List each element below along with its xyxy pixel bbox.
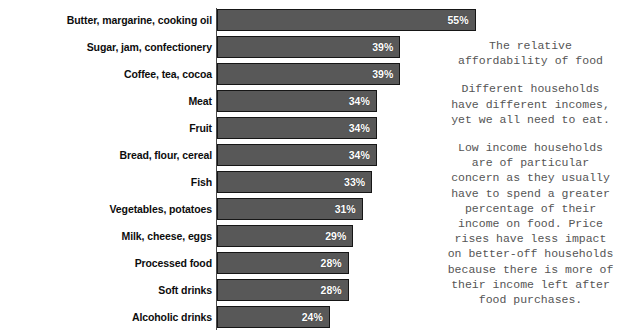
bar-rows: Butter, margarine, cooking oil55%Sugar, … [0,9,480,333]
panel-heading: The relativeaffordability of food [418,38,643,68]
bar-category-label: Soft drinks [2,279,212,301]
panel-text-line: Different households [418,81,643,96]
bar-track: 55% [217,9,476,31]
bar-track: 28% [217,279,349,301]
bar-row: Meat34% [0,90,480,117]
bar-category-label: Alcoholic drinks [2,306,212,328]
bar-row: Soft drinks28% [0,279,480,306]
bar-value-label: 34% [349,150,376,161]
bar-value-label: 39% [372,42,399,53]
panel-paragraph-2: Low income householdsare of particularco… [418,140,643,307]
panel-text-line: are of particular [418,155,643,170]
bar-value-label: 39% [372,69,399,80]
bar-track: 39% [217,63,400,85]
bar-track: 39% [217,36,400,58]
bar: 28% [217,279,349,301]
bar-category-label: Butter, margarine, cooking oil [2,9,212,31]
bar: 33% [217,171,372,193]
side-commentary-panel: The relativeaffordability of food Differ… [418,38,643,307]
bar-category-label: Vegetables, potatoes [2,198,212,220]
bar-category-label: Bread, flour, cereal [2,144,212,166]
bar: 34% [217,144,377,166]
bar-row: Bread, flour, cereal34% [0,144,480,171]
bar-chart: Butter, margarine, cooking oil55%Sugar, … [0,5,480,335]
bar-value-label: 28% [321,285,348,296]
bar-category-label: Coffee, tea, cocoa [2,63,212,85]
panel-text-line: have different incomes, [418,97,643,112]
bar-track: 34% [217,90,377,112]
bar-category-label: Sugar, jam, confectionery [2,36,212,58]
bar-row: Vegetables, potatoes31% [0,198,480,225]
panel-text-line: Low income households [418,140,643,155]
bar: 24% [217,306,330,328]
bar: 31% [217,198,363,220]
bar-track: 29% [217,225,353,247]
bar-category-label: Meat [2,90,212,112]
bar-value-label: 34% [349,96,376,107]
bar-value-label: 31% [335,204,362,215]
bar-row: Milk, cheese, eggs29% [0,225,480,252]
panel-text-line: their income left after [418,277,643,292]
bar: 29% [217,225,353,247]
bar: 55% [217,9,476,31]
panel-paragraph-1: Different householdshave different incom… [418,81,643,127]
bar-row: Butter, margarine, cooking oil55% [0,9,480,36]
bar-track: 34% [217,117,377,139]
bar-value-label: 28% [321,258,348,269]
bar-row: Fruit34% [0,117,480,144]
bar-row: Alcoholic drinks24% [0,306,480,333]
panel-text-line: rises have less impact [418,231,643,246]
infographic-root: (percentage of households) Butter, marga… [0,0,643,335]
panel-text-line: food purchases. [418,292,643,307]
panel-text-line: have to spend a greater [418,186,643,201]
panel-heading-line: The relative [418,38,643,53]
bar-value-label: 29% [325,231,352,242]
bar: 34% [217,117,377,139]
panel-text-line: income on food. Price [418,216,643,231]
bar-track: 28% [217,252,349,274]
bar-value-label: 55% [447,15,474,26]
bar-track: 34% [217,144,377,166]
bar-track: 33% [217,171,372,193]
bar: 39% [217,63,400,85]
panel-text-line: because there is more of [418,262,643,277]
bar: 34% [217,90,377,112]
bar: 28% [217,252,349,274]
bar-value-label: 33% [344,177,371,188]
bar-row: Coffee, tea, cocoa39% [0,63,480,90]
panel-text-line: percentage of their [418,201,643,216]
bar-row: Fish33% [0,171,480,198]
bar-category-label: Processed food [2,252,212,274]
bar: 39% [217,36,400,58]
bar-category-label: Fish [2,171,212,193]
panel-heading-line: affordability of food [418,53,643,68]
panel-text-line: concern as they usually [418,170,643,185]
bar-category-label: Fruit [2,117,212,139]
bar-value-label: 34% [349,123,376,134]
bar-category-label: Milk, cheese, eggs [2,225,212,247]
bar-row: Sugar, jam, confectionery39% [0,36,480,63]
bar-row: Processed food28% [0,252,480,279]
bar-track: 24% [217,306,330,328]
panel-text-line: yet we all need to eat. [418,112,643,127]
panel-text-line: on better-off households [418,246,643,261]
bar-value-label: 24% [302,312,329,323]
chart-title-clipped: (percentage of households) [0,0,470,4]
bar-track: 31% [217,198,363,220]
